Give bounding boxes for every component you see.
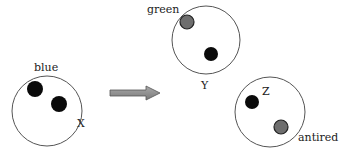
hadron-y: green Y xyxy=(147,3,240,92)
hadron-label-y: Y xyxy=(200,79,209,92)
quark-gray-particle xyxy=(180,15,194,29)
quark-black-particle xyxy=(27,81,43,97)
hadron-z: Z antired xyxy=(235,77,338,147)
transition-arrow xyxy=(110,86,160,100)
hadron-z-boundary xyxy=(235,77,305,147)
hadron-label-z: Z xyxy=(262,85,270,98)
quark-black-particle xyxy=(51,96,67,112)
quark-black-particle xyxy=(204,47,218,61)
color-label-antired: antired xyxy=(298,131,338,144)
color-label-green: green xyxy=(147,3,179,16)
right-arrow-icon xyxy=(110,86,160,100)
color-label-blue: blue xyxy=(34,61,58,74)
quark-gray-particle xyxy=(274,120,288,134)
hadron-label-x: X xyxy=(77,117,85,130)
hadron-x: blue X xyxy=(12,61,85,146)
color-charge-diagram: blue X green Y Z antired xyxy=(0,0,342,152)
hadron-x-boundary xyxy=(12,76,82,146)
quark-black-particle xyxy=(245,95,259,109)
